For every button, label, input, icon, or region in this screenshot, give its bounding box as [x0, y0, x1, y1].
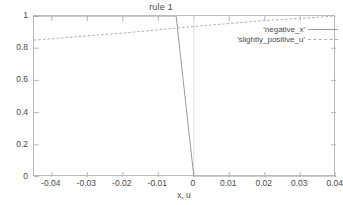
x-tick-label: -0.04 — [41, 178, 60, 188]
chart-title-text: rule 1 — [149, 2, 173, 12]
legend-item-negative-x: 'negative_x' — [196, 24, 338, 34]
x-tick-label: -0.03 — [77, 178, 96, 188]
y-tick-label: 0.4 — [16, 107, 28, 117]
legend-label: 'negative_x' — [263, 25, 308, 34]
x-axis-title: x, u — [33, 190, 335, 200]
y-tick-label: 0.2 — [16, 139, 28, 149]
x-tick-label: 0.01 — [220, 178, 237, 188]
legend-item-slightly-positive-u: 'slightly_positive_u' — [196, 34, 338, 44]
legend-line-sample-solid — [308, 25, 338, 33]
x-tick-label: 0 — [190, 178, 195, 188]
legend-label: 'slightly_positive_u' — [237, 35, 308, 44]
x-tick-label: 0.03 — [291, 178, 308, 188]
y-axis-ticks-right — [331, 48, 336, 145]
y-tick-label: 1 — [23, 10, 28, 20]
y-tick-label: 0.8 — [16, 42, 28, 52]
chart-legend: 'negative_x' 'slightly_positive_u' — [196, 24, 338, 44]
x-tick-label: 0.02 — [256, 178, 273, 188]
y-tick-label: 0.6 — [16, 74, 28, 84]
x-tick-label: -0.01 — [148, 178, 167, 188]
y-axis-tick-labels: 1 0.8 0.6 0.4 0.2 0 — [0, 15, 28, 176]
y-tick-label: 0 — [23, 171, 28, 181]
x-tick-label: -0.02 — [112, 178, 131, 188]
legend-line-sample-dashed — [308, 35, 338, 43]
x-tick-label: 0.04 — [327, 178, 343, 188]
